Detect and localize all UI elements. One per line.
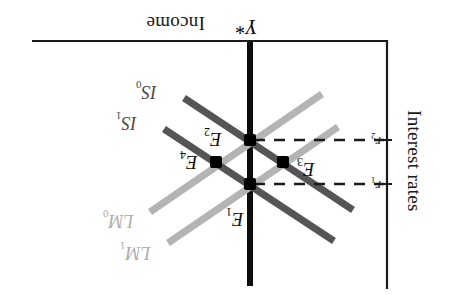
point-E4-sub: 4 — [180, 148, 186, 162]
point-E4-base: E — [186, 152, 198, 173]
curve-LM0-sub: 0 — [103, 208, 109, 220]
is-lm-figure: Income Interest rates Y* r2 r1 IS0 IS1 L… — [0, 0, 458, 295]
point-E1-sub: 1 — [226, 205, 232, 219]
point-label-E2: E2 — [204, 126, 222, 149]
curve-label-LM0: LM0 — [103, 208, 134, 230]
marker-E1 — [244, 178, 256, 190]
curve-LM0-base: LM — [109, 211, 134, 231]
curve-IS0-base: IS — [142, 82, 157, 102]
curve-IS0-sub: 0 — [136, 79, 142, 91]
marker-E3 — [277, 156, 289, 168]
curve-label-IS0: IS0 — [136, 79, 157, 101]
marker-E2 — [244, 134, 256, 146]
point-E2-base: E — [210, 129, 222, 150]
curve-LM1-base: LM — [126, 243, 151, 263]
curve-IS0 — [184, 98, 353, 210]
point-E3-sub: 3 — [297, 155, 303, 169]
tick-label-r1: r1 — [371, 175, 381, 192]
potential-output-label: Y* — [236, 17, 257, 37]
curve-label-LM1: LM1 — [120, 240, 151, 262]
tick-r1-sub: 1 — [371, 175, 376, 185]
interest-rate-axis-title: Interest rates — [405, 110, 424, 212]
point-label-E4: E4 — [180, 149, 198, 172]
point-E1-base: E — [232, 209, 244, 230]
potential-output-text: Y* — [236, 16, 257, 38]
is-lm-plot-svg — [0, 0, 458, 295]
tick-label-r2: r2 — [371, 131, 381, 148]
marker-E4 — [210, 156, 222, 168]
point-E2-sub: 2 — [204, 125, 210, 139]
point-E3-base: E — [303, 159, 315, 180]
point-label-E3: E3 — [297, 156, 315, 179]
income-axis-title: Income — [146, 14, 205, 33]
point-label-E1: E1 — [226, 206, 244, 229]
curve-LM1-sub: 1 — [120, 240, 126, 252]
curve-label-IS1: IS1 — [116, 110, 137, 132]
tick-r2-base: r — [376, 134, 381, 149]
tick-r2-sub: 2 — [371, 131, 376, 141]
curve-IS1-base: IS — [122, 113, 137, 133]
tick-r1-base: r — [376, 178, 381, 193]
curve-IS1-sub: 1 — [116, 110, 122, 122]
